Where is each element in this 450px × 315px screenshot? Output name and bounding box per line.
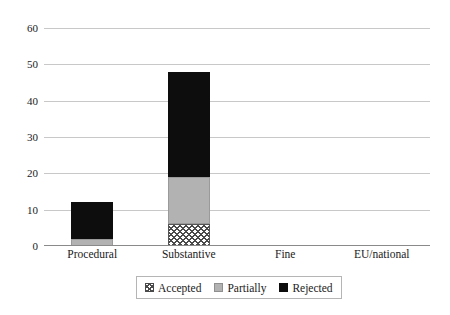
- y-axis-tick-label: 60: [6, 22, 38, 34]
- legend-label: Accepted: [158, 282, 201, 294]
- x-axis-category-labels: ProceduralSubstantiveFineEU/national: [44, 248, 430, 266]
- legend-swatch-rejected-icon: [279, 283, 288, 292]
- bar-stack[interactable]: [168, 72, 210, 246]
- x-axis-label-fine: Fine: [237, 248, 334, 260]
- x-axis-label-procedural: Procedural: [44, 248, 141, 260]
- bar-slot: [44, 28, 141, 246]
- y-axis-tick-label: 20: [6, 167, 38, 179]
- plot-area: [44, 28, 430, 246]
- bar-stack[interactable]: [71, 202, 113, 246]
- legend-item-rejected[interactable]: Rejected: [279, 282, 332, 294]
- legend-label: Rejected: [292, 282, 332, 294]
- legend-label: Partially: [227, 282, 266, 294]
- y-axis-tick-label: 0: [6, 240, 38, 252]
- y-axis-tick-label: 30: [6, 131, 38, 143]
- chart-legend: AcceptedPartiallyRejected: [136, 276, 342, 299]
- x-axis-label-substantive: Substantive: [141, 248, 238, 260]
- stacked-bar-chart: 0102030405060 ProceduralSubstantiveFineE…: [0, 0, 450, 315]
- y-axis-tick-label: 10: [6, 204, 38, 216]
- legend-swatch-partially-icon: [214, 283, 223, 292]
- legend-swatch-accepted-icon: [145, 283, 154, 292]
- bar-slot: [141, 28, 238, 246]
- y-axis-tick-label: 50: [6, 58, 38, 70]
- bar-segment-accepted: [168, 224, 210, 246]
- bar-segment-rejected: [71, 202, 113, 238]
- x-axis-label-eu-national: EU/national: [334, 248, 431, 260]
- bar-segment-rejected: [168, 72, 210, 177]
- x-axis-line: [44, 245, 430, 246]
- y-axis-tick-label: 40: [6, 95, 38, 107]
- legend-item-accepted[interactable]: Accepted: [145, 282, 201, 294]
- bar-slot: [237, 28, 334, 246]
- bar-segment-partially: [168, 177, 210, 224]
- legend-item-partially[interactable]: Partially: [214, 282, 266, 294]
- bar-slot: [334, 28, 431, 246]
